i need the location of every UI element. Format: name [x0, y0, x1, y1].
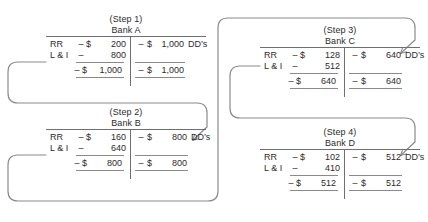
row-label: L & I [260, 61, 290, 72]
assets-subtotal-rule [76, 155, 124, 156]
total-currency: $ [147, 158, 157, 169]
row-currency: $ [361, 152, 371, 163]
row-sign: – [349, 152, 361, 163]
row-sign: – [349, 50, 361, 61]
assets-column: RR – $ 160 L & I – 640 – [46, 130, 130, 171]
liabilities-total-row: – $ 512 [345, 178, 424, 189]
assets-row-li: L & I – 512 [260, 61, 344, 72]
liabilities-column: – $ 1,000 DD’s – $ 1,000 [130, 37, 207, 78]
total-sign: – [72, 158, 82, 169]
assets-row-li: L & I – 800 [46, 50, 130, 61]
t-account-bank-b: (Step 2) Bank B RR – $ 160 L & I – [46, 107, 206, 171]
liabilities-row-dds: – $ 1,000 DD’s [131, 39, 207, 50]
total-amount: 640 [304, 76, 336, 87]
assets-subtotal-rule [290, 175, 338, 176]
assets-column: RR – $ 128 L & I – 512 – [260, 48, 344, 89]
t-account-header: (Step 3) Bank C [260, 25, 420, 46]
bank-label: Bank D [260, 138, 420, 149]
row-amount: 1,000 [154, 39, 184, 50]
diagram-canvas: (Step 1) Bank A RR – $ 200 L & I – [0, 0, 428, 222]
row-tag: DD’s [401, 152, 424, 163]
liabilities-double-rule [135, 170, 188, 171]
liabilities-column: – $ 512 DD’s – $ 512 [344, 150, 424, 191]
t-account-body: RR – $ 160 L & I – 640 – [46, 129, 206, 171]
total-amount: 1,000 [154, 65, 184, 76]
row-currency: $ [300, 50, 308, 61]
bank-label: Bank A [46, 25, 206, 36]
assets-double-rule [76, 77, 124, 78]
t-account-bank-d: (Step 4) Bank D RR – $ 102 L & I – [260, 127, 420, 191]
row-label: L & I [260, 163, 290, 174]
step-label: (Step 3) [260, 25, 420, 36]
row-sign: – [135, 132, 147, 143]
row-label: L & I [46, 50, 76, 61]
row-amount: 128 [308, 50, 340, 61]
t-account-body: RR – $ 200 L & I – 800 – [46, 36, 206, 78]
row-amount: 102 [308, 152, 340, 163]
row-amount: 512 [308, 61, 340, 72]
row-amount: 200 [94, 39, 126, 50]
t-account-bank-a: (Step 1) Bank A RR – $ 200 L & I – [46, 14, 206, 78]
bank-label: Bank B [46, 118, 206, 129]
assets-total-row: – $ 512 [260, 178, 344, 189]
row-sign: – [290, 50, 300, 61]
row-label: RR [46, 132, 76, 143]
row-tag: DD’s [187, 132, 210, 143]
t-account-header: (Step 1) Bank A [46, 14, 206, 35]
assets-double-rule [290, 190, 338, 191]
total-amount: 800 [90, 158, 122, 169]
assets-total-row: – $ 1,000 [46, 65, 130, 76]
row-sign: – [76, 50, 86, 61]
total-sign: – [72, 65, 82, 76]
t-account-header: (Step 2) Bank B [46, 107, 206, 128]
total-currency: $ [296, 178, 304, 189]
assets-total-row: – $ 800 [46, 158, 130, 169]
row-currency: $ [361, 50, 371, 61]
row-currency: $ [300, 152, 308, 163]
row-currency: $ [147, 132, 157, 143]
row-amount: 800 [94, 50, 126, 61]
step-label: (Step 4) [260, 127, 420, 138]
total-amount: 1,000 [90, 65, 122, 76]
total-amount: 800 [157, 158, 187, 169]
assets-column: RR – $ 102 L & I – 410 – [260, 150, 344, 191]
row-sign: – [290, 61, 300, 72]
t-account-bank-c: (Step 3) Bank C RR – $ 128 L & I – [260, 25, 420, 89]
t-account-body: RR – $ 102 L & I – 410 – [260, 149, 420, 191]
liabilities-column: – $ 800 DD’s – $ 800 [130, 130, 210, 171]
assets-row-rr: RR – $ 102 [260, 152, 344, 163]
t-account-header: (Step 4) Bank D [260, 127, 420, 148]
assets-subtotal-rule [76, 62, 124, 63]
assets-row-rr: RR – $ 160 [46, 132, 130, 143]
assets-row-rr: RR – $ 128 [260, 50, 344, 61]
total-amount: 512 [371, 178, 401, 189]
assets-double-rule [76, 170, 124, 171]
total-currency: $ [82, 65, 90, 76]
bank-label: Bank C [260, 36, 420, 47]
assets-double-rule [290, 88, 338, 89]
row-currency: $ [86, 39, 94, 50]
row-sign: – [290, 163, 300, 174]
row-tag: DD’s [184, 39, 207, 50]
step-label: (Step 1) [46, 14, 206, 25]
liabilities-total-row: – $ 1,000 [131, 65, 207, 76]
liabilities-row-dds: – $ 640 DD’s [345, 50, 424, 61]
row-label: L & I [46, 143, 76, 154]
row-amount: 640 [371, 50, 401, 61]
total-currency: $ [361, 178, 371, 189]
row-sign: – [76, 143, 86, 154]
total-currency: $ [361, 76, 371, 87]
assets-row-rr: RR – $ 200 [46, 39, 130, 50]
liabilities-subtotal-rule [349, 73, 402, 74]
assets-column: RR – $ 200 L & I – 800 – [46, 37, 130, 78]
total-amount: 640 [371, 76, 401, 87]
row-currency: $ [147, 39, 154, 50]
row-amount: 160 [94, 132, 126, 143]
row-currency: $ [86, 132, 94, 143]
liabilities-subtotal-rule [349, 175, 402, 176]
row-label: RR [260, 152, 290, 163]
total-sign: – [286, 76, 296, 87]
liabilities-row-dds: – $ 512 DD’s [345, 152, 424, 163]
row-amount: 410 [308, 163, 340, 174]
assets-row-li: L & I – 640 [46, 143, 130, 154]
